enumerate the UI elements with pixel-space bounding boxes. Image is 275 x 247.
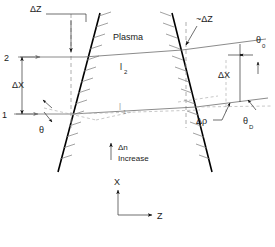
delta-n-increase-label: Increase (118, 154, 149, 163)
delta-x-right-label: ΔX (218, 70, 230, 80)
theta-D-subscript: D (249, 124, 254, 130)
ray-2-id-label: 2 (4, 53, 9, 63)
delta-rho-label: Δρ (196, 116, 207, 126)
delta-x-left-label: ΔX (12, 80, 24, 90)
theta-0-label: θ (256, 35, 261, 45)
theta-D-label: θ (243, 116, 248, 126)
axis-x-label: X (114, 177, 120, 187)
delta-n-symbol-label: Δn (118, 143, 128, 152)
plasma-region-label: Plasma (113, 32, 143, 42)
delta-z-left-label: ΔZ (30, 4, 42, 14)
plasma-ray-refraction-diagram: ΔZ ~ΔZ ΔX ΔX θ 0 θ Δρ θ D 2 (0, 0, 275, 247)
theta-entry-label: θ (39, 125, 44, 135)
axis-z-label: Z (157, 211, 163, 221)
path-length-l1-label: l (119, 102, 121, 112)
path-length-l2-label: l (120, 62, 122, 72)
delta-z-right-label: ~ΔZ (196, 14, 213, 24)
ray-1-id-label: 1 (2, 110, 7, 120)
